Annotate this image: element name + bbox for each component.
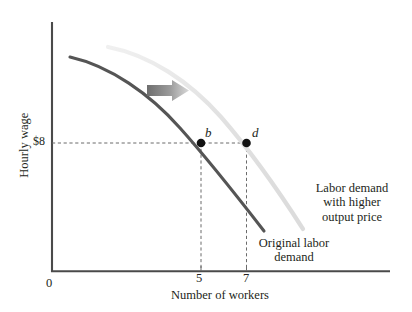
x-tick-label-7: 7	[243, 271, 249, 285]
shifted-curve-label-line3: output price	[306, 210, 398, 224]
labor-demand-shift-figure: Hourly wage Number of workers 0 5 7 $8 b…	[0, 0, 412, 312]
shifted-curve-label-line2: with higher	[306, 195, 398, 209]
original-curve-label-line1: Original labor	[248, 236, 340, 250]
y-tick-label-wage: $8	[33, 135, 45, 149]
x-tick-label-5: 5	[196, 271, 202, 285]
chart-canvas	[0, 0, 412, 312]
point-b-label: b	[205, 126, 212, 141]
axis-lines	[51, 22, 390, 272]
original-curve-label: Original labor demand	[248, 236, 340, 265]
original-curve-label-line2: demand	[248, 250, 340, 264]
guide-lines	[52, 143, 247, 271]
point-d-marker	[242, 139, 251, 148]
shifted-curve-label-line1: Labor demand	[306, 181, 398, 195]
shifted-curve-label: Labor demand with higher output price	[306, 181, 398, 224]
x-axis-title: Number of workers	[140, 288, 300, 302]
origin-label: 0	[46, 276, 52, 290]
point-d-label: d	[252, 126, 259, 141]
y-axis-title: Hourly wage	[17, 100, 31, 190]
original-labor-demand-curve	[70, 57, 264, 231]
point-b-marker	[197, 139, 206, 148]
